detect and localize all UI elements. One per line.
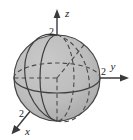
x-axis-label: x — [24, 125, 30, 137]
x-axis-tick-label: 2 — [19, 108, 24, 119]
y-axis-tick-label: 2 — [101, 66, 106, 77]
y-axis-arrowhead — [120, 75, 129, 82]
y-axis-label: y — [110, 60, 116, 72]
sphere-diagram-figure: z 2 y 2 x 2 — [0, 0, 133, 140]
x-axis-arrowhead — [12, 125, 21, 134]
sphere-diagram-canvas: z 2 y 2 x 2 — [0, 0, 133, 140]
z-axis-label: z — [64, 7, 70, 19]
z-axis-tick-label: 2 — [49, 26, 54, 37]
z-axis-arrowhead — [54, 9, 61, 18]
